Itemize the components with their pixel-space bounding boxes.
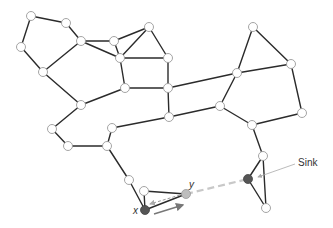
edges xyxy=(21,16,302,210)
node-x xyxy=(141,206,150,215)
y-label: y xyxy=(188,179,195,190)
node-y xyxy=(182,190,191,199)
nodes xyxy=(17,12,307,215)
sink-label: Sink xyxy=(298,157,318,168)
dashed-links xyxy=(150,164,295,214)
x-label: x xyxy=(132,205,139,216)
graph-svg: Sink x y xyxy=(0,0,333,228)
sink-node xyxy=(244,175,253,184)
network-diagram: Sink x y xyxy=(0,0,333,228)
